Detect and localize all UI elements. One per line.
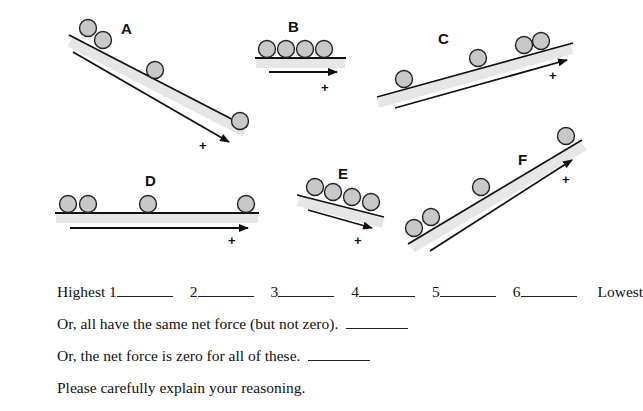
ball: [232, 113, 249, 130]
answer-blank[interactable]: [278, 284, 334, 297]
ball: [60, 196, 77, 213]
plus-sign: +: [562, 172, 570, 187]
ranking-start-label: Highest: [57, 283, 105, 300]
answer-blank[interactable]: [521, 284, 577, 297]
rank-slot-5[interactable]: 5: [432, 283, 496, 301]
ball: [533, 33, 550, 50]
ball: [344, 189, 361, 206]
ball: [307, 179, 324, 196]
answer-blank[interactable]: [440, 284, 496, 297]
plus-sign: +: [199, 138, 207, 153]
ranking-row: Highest 123456 Lowest: [57, 283, 643, 301]
plus-sign: +: [549, 68, 557, 83]
ball: [147, 62, 164, 79]
ball: [80, 20, 97, 37]
panel-label: A: [121, 20, 132, 37]
rank-slot-2[interactable]: 2: [190, 283, 254, 301]
same-net-force-row: Or, all have the same net force (but not…: [57, 315, 408, 333]
plus-sign: +: [228, 233, 236, 248]
panel-label: D: [145, 172, 156, 189]
panel-d: D +: [55, 172, 259, 248]
answer-blank[interactable]: [359, 284, 415, 297]
rank-slot-6[interactable]: 6: [513, 283, 577, 301]
ball: [558, 128, 575, 145]
positive-direction-arrow: [430, 160, 572, 251]
panel-label: E: [338, 165, 348, 182]
ball: [363, 194, 380, 211]
zero-net-force-text: Or, the net force is zero for all of the…: [57, 347, 300, 364]
panel-e: E +: [297, 165, 384, 248]
ball: [325, 184, 342, 201]
plus-sign: +: [321, 80, 329, 95]
ranking-end-label: Lowest: [597, 283, 643, 300]
rank-slot-3[interactable]: 3: [271, 283, 335, 301]
answer-blank[interactable]: [198, 284, 254, 297]
ball: [406, 220, 423, 237]
same-net-force-text: Or, all have the same net force (but not…: [57, 315, 338, 332]
ball: [297, 41, 314, 58]
ball: [396, 71, 413, 88]
ball: [95, 32, 112, 49]
panel-c: C +: [377, 30, 573, 108]
ball: [473, 179, 490, 196]
explain-row: Please carefully explain your reasoning.: [57, 379, 305, 397]
physics-diagram: A + B + C + D +: [0, 0, 611, 270]
ball: [470, 50, 487, 67]
ball: [259, 41, 276, 58]
ball: [80, 196, 97, 213]
panel-f: F +: [406, 128, 585, 252]
ball: [423, 209, 440, 226]
panel-label: F: [518, 151, 527, 168]
panel-b: B +: [255, 18, 346, 95]
ball: [316, 41, 333, 58]
ball: [516, 37, 533, 54]
panel-label: C: [438, 30, 449, 47]
same-net-force-blank[interactable]: [346, 316, 408, 329]
plus-sign: +: [354, 233, 362, 248]
explain-text: Please carefully explain your reasoning.: [57, 379, 305, 396]
ball: [278, 41, 295, 58]
zero-net-force-row: Or, the net force is zero for all of the…: [57, 347, 370, 365]
panel-a: A +: [69, 20, 249, 154]
answer-blank[interactable]: [117, 284, 173, 297]
ball: [140, 196, 157, 213]
zero-net-force-blank[interactable]: [308, 348, 370, 361]
rank-slot-4[interactable]: 4: [351, 283, 415, 301]
panel-label: B: [288, 18, 299, 35]
rank-slot-1[interactable]: 1: [109, 283, 173, 301]
ball: [238, 196, 255, 213]
